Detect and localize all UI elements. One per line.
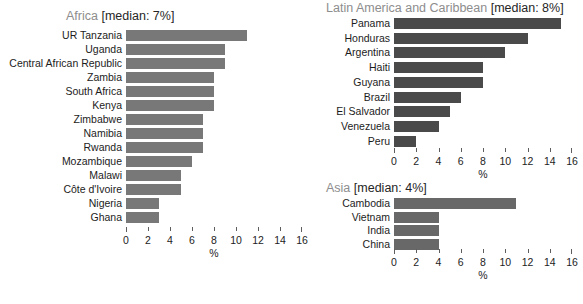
axis-tick: [170, 227, 171, 231]
axis-tick: [550, 249, 551, 253]
axis-tick-label: 12: [522, 155, 534, 167]
bar-category-label: Haiti: [320, 62, 390, 73]
axis-tick: [528, 249, 529, 253]
bar: [126, 198, 159, 209]
bar-category-label: Zimbabwe: [0, 114, 122, 125]
bar-category-label: Cambodia: [320, 198, 390, 209]
axis-tick: [461, 249, 462, 253]
axis-tick: [192, 227, 193, 231]
bar-category-label: South Africa: [0, 86, 122, 97]
bar: [126, 142, 203, 153]
axis-tick: [258, 227, 259, 231]
bar-category-label: Mozambique: [0, 156, 122, 167]
bar: [126, 212, 159, 223]
bar-category-label: Guyana: [320, 77, 390, 88]
axis-tick-label: 0: [391, 256, 397, 268]
bar: [126, 72, 214, 83]
bar: [126, 156, 192, 167]
axis-tick-label: 10: [499, 256, 511, 268]
axis-tick-label: 16: [296, 234, 308, 246]
panel-title-median-latin-america: [median: 8%]: [491, 1, 564, 15]
bar-category-label: India: [320, 225, 390, 236]
bar: [126, 86, 214, 97]
bar-category-label: Panama: [320, 18, 390, 29]
bar: [394, 136, 416, 147]
bar-category-label: UR Tanzania: [0, 30, 122, 41]
bar: [394, 121, 439, 132]
panel-title-region-africa: Africa: [66, 9, 98, 23]
axis-tick: [214, 227, 215, 231]
bar-category-label: China: [320, 239, 390, 250]
bar-category-label: Peru: [320, 136, 390, 147]
axis-tick-label: 4: [167, 234, 173, 246]
bar-category-label: Côte d'Ivoire: [0, 184, 122, 195]
bar: [394, 92, 461, 103]
axis-tick: [571, 249, 572, 254]
axis-tick: [505, 249, 506, 253]
axis-tick: [461, 148, 462, 152]
bar: [126, 58, 225, 69]
axis-tick: [528, 148, 529, 152]
axis-tick-label: 0: [391, 155, 397, 167]
bar-category-label: El Salvador: [320, 106, 390, 117]
bar: [394, 225, 439, 236]
axis-tick-label: 14: [544, 256, 556, 268]
panel-title-asia: Asia [median: 4%]: [326, 181, 427, 195]
bar-category-label: Ghana: [0, 212, 122, 223]
bar-category-label: Venezuela: [320, 121, 390, 132]
x-axis-title-africa: %: [209, 247, 218, 259]
axis-tick-label: 8: [480, 256, 486, 268]
bar: [394, 47, 505, 58]
axis-tick: [505, 148, 506, 152]
bar-category-label: Nigeria: [0, 198, 122, 209]
bar: [394, 33, 528, 44]
bar-category-label: Zambia: [0, 72, 122, 83]
axis-tick: [394, 249, 395, 254]
axis-tick: [439, 249, 440, 253]
axis-tick: [483, 148, 484, 152]
axis-tick-label: 6: [458, 155, 464, 167]
bar: [126, 170, 181, 181]
bar-category-label: Central African Republic: [0, 58, 122, 69]
bar: [394, 18, 561, 29]
bar-category-label: Honduras: [320, 33, 390, 44]
x-axis-title-asia: %: [478, 269, 487, 281]
axis-tick: [416, 148, 417, 152]
bar-category-label: Rwanda: [0, 142, 122, 153]
axis-tick-label: 8: [211, 234, 217, 246]
axis-tick-label: 4: [436, 155, 442, 167]
panel-africa: Africa [median: 7%] UR TanzaniaUgandaCen…: [0, 0, 320, 304]
axis-tick-label: 6: [189, 234, 195, 246]
axis-tick-label: 16: [566, 256, 578, 268]
bar: [394, 239, 439, 250]
bar: [394, 62, 483, 73]
axis-tick-label: 4: [436, 256, 442, 268]
bar: [394, 106, 450, 117]
axis-tick: [301, 227, 302, 232]
panel-title-region-latin-america: Latin America and Caribbean: [326, 1, 487, 15]
bar-category-label: Kenya: [0, 100, 122, 111]
axis-tick: [550, 148, 551, 152]
panel-title-median-africa: [median: 7%]: [101, 9, 174, 23]
axis-tick-label: 12: [252, 234, 264, 246]
panel-latin-america: Latin America and Caribbean [median: 8%]…: [320, 0, 583, 180]
axis-tick-label: 2: [145, 234, 151, 246]
bar: [394, 212, 439, 223]
panel-asia: Asia [median: 4%] CambodiaVietnamIndiaCh…: [320, 178, 583, 304]
axis-tick-label: 12: [522, 256, 534, 268]
axis-tick: [439, 148, 440, 152]
axis-tick: [148, 227, 149, 231]
axis-tick-label: 6: [458, 256, 464, 268]
bar-category-label: Namibia: [0, 128, 122, 139]
bar: [394, 198, 516, 209]
axis-tick-label: 2: [413, 155, 419, 167]
bar: [126, 44, 225, 55]
bar-category-label: Argentina: [320, 47, 390, 58]
bar: [126, 128, 203, 139]
axis-tick: [280, 227, 281, 231]
axis-tick-label: 8: [480, 155, 486, 167]
bar: [126, 184, 181, 195]
axis-tick-label: 14: [544, 155, 556, 167]
axis-tick-label: 10: [230, 234, 242, 246]
bar: [126, 114, 203, 125]
